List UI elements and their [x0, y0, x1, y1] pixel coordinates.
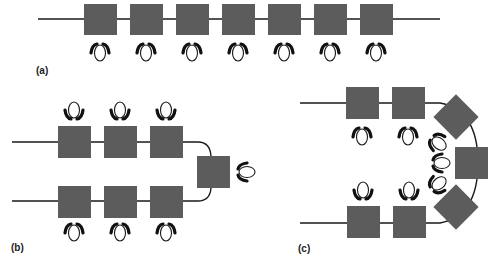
seated-person-icon	[157, 102, 175, 119]
square-table-icon	[130, 4, 163, 35]
head-table-icon	[197, 156, 230, 188]
seated-person-icon	[229, 44, 247, 61]
square-table-icon	[150, 126, 183, 158]
seated-person-icon	[65, 224, 83, 241]
square-table-icon	[393, 206, 426, 238]
seated-person-icon	[111, 102, 129, 119]
seat-row-top	[65, 102, 175, 119]
panel-a: (a)	[36, 4, 440, 76]
square-table-icon	[150, 186, 183, 218]
seated-person-icon	[183, 44, 201, 61]
square-table-icon	[268, 4, 301, 35]
table-row-bottom	[347, 206, 426, 238]
table-row	[84, 4, 393, 35]
seat-row-bottom	[354, 182, 418, 199]
seated-person-icon	[354, 182, 372, 199]
seated-person-icon	[137, 44, 155, 61]
square-table-icon	[360, 4, 393, 35]
seated-person-icon	[321, 44, 339, 61]
square-table-icon	[104, 126, 137, 158]
square-table-icon	[84, 4, 117, 35]
square-table-icon	[58, 186, 91, 218]
seated-person-icon	[433, 154, 450, 172]
square-table-icon	[392, 87, 425, 119]
seat-row-top	[353, 128, 417, 145]
seated-person-icon	[157, 224, 175, 241]
seat-row-bottom	[65, 224, 175, 241]
square-table-icon	[455, 147, 488, 179]
seated-person-icon	[91, 44, 109, 61]
square-table-icon	[222, 4, 255, 35]
seated-person-icon	[426, 131, 451, 156]
panel-label: (a)	[36, 65, 48, 76]
square-table-icon	[347, 206, 380, 238]
table-row-top	[58, 126, 183, 158]
square-table-icon	[314, 4, 347, 35]
seat-arc	[426, 131, 451, 196]
seated-person-icon	[238, 163, 255, 181]
seated-person-icon	[426, 171, 451, 196]
panel-label: (b)	[11, 242, 24, 253]
panel-label: (c)	[298, 243, 310, 254]
seated-person-icon	[367, 44, 385, 61]
seated-person-icon	[400, 182, 418, 199]
square-table-icon	[104, 186, 137, 218]
seated-person-icon	[353, 128, 371, 145]
seated-person-icon	[111, 224, 129, 241]
panel-b: (b)	[11, 102, 255, 253]
seating-layout-diagram: (a) (b)	[0, 0, 498, 264]
square-table-icon	[58, 126, 91, 158]
seat-row	[91, 44, 385, 61]
panel-c: (c)	[298, 87, 488, 254]
seated-person-icon	[65, 102, 83, 119]
square-table-icon	[176, 4, 209, 35]
seated-person-icon	[399, 128, 417, 145]
square-table-icon	[346, 87, 379, 119]
seated-person-icon	[275, 44, 293, 61]
table-row-bottom	[58, 186, 183, 218]
